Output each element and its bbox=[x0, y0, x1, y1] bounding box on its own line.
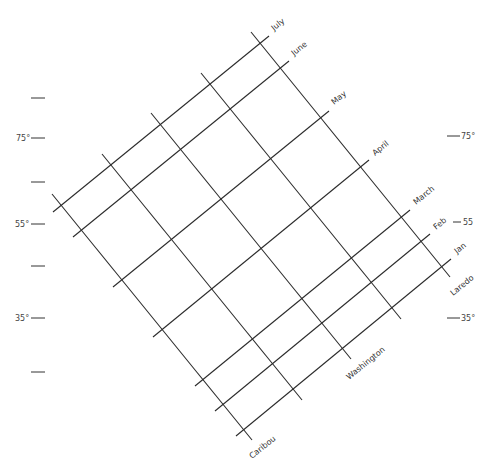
left-axis: 75° 55° 35° bbox=[15, 98, 45, 372]
location-lines bbox=[52, 32, 450, 440]
month-line-feb bbox=[215, 234, 430, 411]
month-line-march bbox=[195, 210, 410, 386]
right-label-55: 55 bbox=[463, 218, 473, 227]
location-line-2 bbox=[102, 154, 302, 400]
location-label-washington: Washington bbox=[345, 345, 387, 382]
location-label-laredo: Laredo bbox=[449, 273, 476, 297]
month-label-may: May bbox=[330, 89, 349, 107]
location-line-laredo bbox=[251, 32, 450, 277]
right-label-35: 35° bbox=[461, 314, 475, 323]
month-label-june: June bbox=[289, 40, 309, 59]
climate-grid-diagram: July June May April March Feb Jan Caribo… bbox=[0, 0, 494, 471]
right-label-75: 75° bbox=[461, 132, 475, 141]
location-label-caribou: Caribou bbox=[248, 434, 278, 461]
left-label-35: 35° bbox=[15, 314, 29, 323]
location-line-caribou bbox=[52, 194, 252, 440]
left-label-55: 55° bbox=[15, 220, 29, 229]
location-labels: Caribou Washington Laredo bbox=[248, 273, 476, 460]
month-label-feb: Feb bbox=[432, 216, 449, 232]
month-line-jan bbox=[236, 259, 451, 436]
month-label-march: March bbox=[412, 184, 437, 206]
left-label-75: 75° bbox=[16, 134, 30, 143]
month-line-june bbox=[73, 61, 289, 237]
month-label-jan: Jan bbox=[452, 241, 468, 256]
month-label-july: July bbox=[269, 16, 287, 33]
month-lines bbox=[53, 36, 451, 436]
location-line-washington bbox=[151, 113, 351, 359]
month-label-april: April bbox=[371, 139, 391, 158]
